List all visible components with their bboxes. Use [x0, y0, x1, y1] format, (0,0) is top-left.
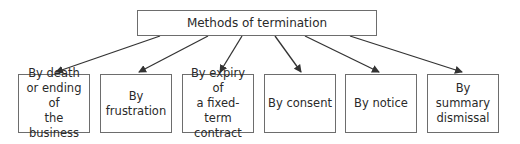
node-by-consent: By consent [264, 74, 336, 133]
root-node-label: Methods of termination [187, 16, 327, 31]
node-label: By frustration [106, 89, 166, 119]
node-label: By expiry of a fixed-term contract [185, 66, 251, 141]
arrow-to-consent [275, 36, 301, 72]
node-label: By notice [354, 96, 408, 111]
node-by-frustration: By frustration [100, 74, 172, 133]
node-by-notice: By notice [345, 74, 417, 133]
node-by-expiry: By expiry of a fixed-term contract [182, 74, 254, 133]
node-label: By summary dismissal [436, 81, 490, 126]
root-node-methods-of-termination: Methods of termination [137, 10, 377, 36]
node-label: By death or ending of the business [21, 66, 87, 141]
node-by-summary-dismissal: By summary dismissal [427, 74, 499, 133]
node-label: By consent [268, 96, 332, 111]
node-by-death: By death or ending of the business [18, 74, 90, 133]
